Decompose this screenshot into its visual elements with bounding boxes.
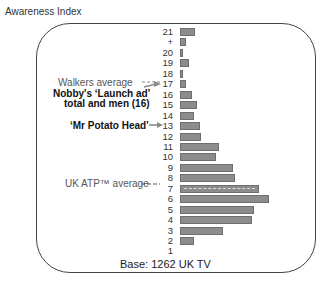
bar: [180, 216, 252, 224]
bar-row: 6: [0, 194, 335, 204]
category-label: 1: [143, 246, 173, 256]
mr-potato-head-label: ‘Mr Potato Head’: [70, 120, 149, 131]
bar: [180, 38, 186, 46]
bar: [180, 143, 219, 151]
bar: [180, 164, 233, 172]
bar: [180, 133, 201, 141]
uk-atp-dashed-line-icon: [140, 181, 162, 187]
bar-rows: 21+2019181716151413121110987654321: [0, 0, 335, 290]
bar: [180, 91, 192, 99]
bar: [180, 185, 259, 193]
bar-row: 19: [0, 58, 335, 68]
category-label: +: [143, 37, 173, 47]
walkers-nobbys-arrow-icon: [140, 78, 164, 92]
bar-row: 12: [0, 132, 335, 142]
uk-atp-average-label: UK ATP™ average: [65, 178, 149, 189]
bar-row: 17: [0, 79, 335, 89]
bar-row: 10: [0, 152, 335, 162]
bar: [180, 80, 186, 88]
bar: [180, 122, 200, 130]
bar: [180, 195, 269, 203]
walkers-average-label: Walkers average: [58, 77, 133, 88]
bar: [180, 206, 254, 214]
bar: [180, 174, 235, 182]
bar-row: 1: [0, 246, 335, 256]
bar-row: +: [0, 37, 335, 47]
bar: [180, 59, 189, 67]
category-label: 6: [143, 194, 173, 204]
bar: [180, 237, 194, 245]
bar: [180, 227, 223, 235]
bar: [180, 112, 194, 120]
bar: [180, 153, 216, 161]
category-label: 19: [143, 58, 173, 68]
category-label: 4: [143, 215, 173, 225]
nobbys-total-men-label: total and men (16): [64, 98, 150, 109]
bar-row: 4: [0, 215, 335, 225]
bar: [180, 49, 183, 57]
bar-row: 15: [0, 100, 335, 110]
base-footnote: Base: 1262 UK TV: [120, 258, 211, 270]
mr-potato-head-arrow-icon: [148, 121, 164, 129]
bar-row: 13: [0, 121, 335, 131]
category-label: 12: [143, 132, 173, 142]
bar: [180, 70, 183, 78]
category-label: 10: [143, 152, 173, 162]
bar-row: 8: [0, 173, 335, 183]
bar: [180, 28, 195, 36]
bar: [180, 101, 197, 109]
